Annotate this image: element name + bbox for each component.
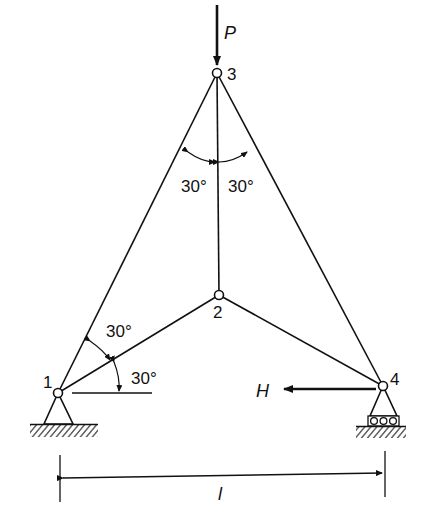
roller-support (356, 386, 406, 438)
truss-diagram: P H 3 2 1 4 30° 30° 30° 30° l (0, 0, 432, 530)
node-label-2: 2 (213, 303, 222, 322)
angle-label-top-right: 30° (228, 177, 254, 196)
angle-arcs-node1 (90, 341, 119, 391)
joint-3 (213, 69, 222, 78)
member-2-3 (217, 73, 219, 295)
angle-label-top-left: 30° (181, 177, 207, 196)
node-label-3: 3 (227, 65, 236, 84)
node-label-4: 4 (390, 370, 399, 389)
joint-1 (54, 389, 63, 398)
joint-4 (379, 382, 388, 391)
angle-label-node1-upper: 30° (106, 322, 132, 341)
angle-label-node1-lower: 30° (131, 369, 157, 388)
dimension-label-l: l (218, 484, 223, 504)
joints (54, 69, 388, 398)
members (58, 73, 383, 393)
node-label-1: 1 (43, 373, 52, 392)
dimension-l (60, 451, 385, 502)
joint-2 (215, 291, 224, 300)
load-h-label: H (256, 381, 270, 401)
pin-support (30, 393, 98, 437)
load-p-label: P (224, 23, 236, 43)
